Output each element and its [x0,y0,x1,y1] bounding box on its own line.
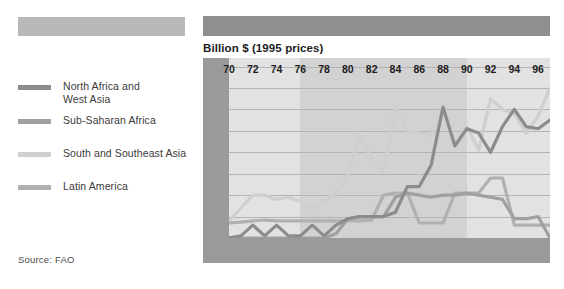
x-tick-label: 72 [247,63,259,75]
series-line [229,178,550,225]
series-lines [229,58,550,238]
x-tick-label: 82 [366,63,378,75]
series-line [229,107,550,238]
x-tick-label: 74 [271,63,283,75]
legend-item-3: Latin America [18,180,128,193]
legend-item-label: North Africa and West Asia [63,80,140,105]
chart-title: Billion $ (1995 prices) [203,42,324,54]
y-axis-band [203,58,229,238]
legend-swatch-icon [18,152,51,157]
plot-region [229,58,550,238]
legend-item-2: South and Southeast Asia [18,147,186,160]
legend-item-0: North Africa and West Asia [18,80,140,105]
x-tick-label: 78 [318,63,330,75]
header-bar-right [203,16,550,36]
x-tick-label: 90 [461,63,473,75]
x-axis-band [203,238,550,263]
chart-page: North Africa and West AsiaSub-Saharan Af… [0,0,564,289]
legend-item-label: South and Southeast Asia [63,147,186,160]
legend-item-label: Latin America [63,180,128,193]
x-tick-label: 86 [413,63,425,75]
x-tick-label: 80 [342,63,354,75]
x-tick-label: 96 [532,63,544,75]
x-tick-label: 94 [508,63,520,75]
legend-swatch-icon [18,185,51,190]
x-tick-label: 76 [294,63,306,75]
x-tick-label: 84 [390,63,402,75]
legend-item-label: Sub-Saharan Africa [63,114,156,127]
legend-swatch-icon [18,119,51,124]
x-tick-label: 88 [437,63,449,75]
x-tick-label: 92 [485,63,497,75]
legend-swatch-icon [18,85,51,90]
source-note: Source: FAO [18,254,75,265]
legend-item-1: Sub-Saharan Africa [18,114,156,127]
chart-area: 00.511.522.533.54 7072747678808284868890… [203,58,550,263]
x-tick-label: 70 [223,63,235,75]
header-bar-left [18,17,185,36]
